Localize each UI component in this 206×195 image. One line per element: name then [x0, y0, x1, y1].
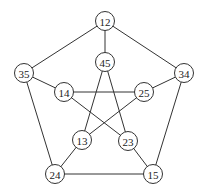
nodes-layer: 12353424154514251323 [15, 12, 194, 184]
edge-12-34 [105, 21, 184, 73]
edges-layer [24, 21, 184, 174]
graph-svg: 12353424154514251323 [0, 0, 206, 195]
node-13: 13 [73, 131, 92, 150]
node-label: 12 [100, 16, 111, 28]
node-34: 34 [175, 64, 194, 83]
node-24: 24 [46, 165, 65, 184]
node-label: 14 [59, 87, 71, 99]
node-14: 14 [55, 83, 74, 102]
node-label: 13 [77, 135, 89, 147]
petersen-graph-diagram: 12353424154514251323 [0, 0, 206, 195]
node-label: 45 [100, 57, 112, 69]
node-35: 35 [15, 64, 34, 83]
node-23: 23 [119, 132, 138, 151]
edge-34-15 [153, 73, 184, 174]
node-label: 34 [179, 68, 191, 80]
node-label: 23 [123, 136, 135, 148]
node-15: 15 [144, 165, 163, 184]
node-12: 12 [96, 12, 115, 31]
node-45: 45 [96, 53, 115, 72]
edge-14-23 [64, 92, 128, 141]
node-label: 24 [50, 169, 62, 181]
edge-35-24 [24, 73, 55, 174]
edge-12-35 [24, 21, 105, 73]
edge-45-13 [82, 62, 105, 140]
node-label: 15 [148, 169, 160, 181]
node-25: 25 [135, 83, 154, 102]
edge-25-13 [82, 92, 144, 140]
edge-45-23 [105, 62, 128, 141]
node-label: 25 [139, 87, 151, 99]
node-label: 35 [19, 68, 31, 80]
